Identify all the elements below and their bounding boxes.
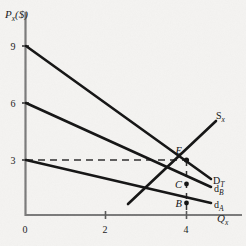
x-tick-label-2: 2 [103,224,108,235]
chart-svg: Px($) Qx 9 6 3 0 2 4 [0,0,246,246]
curve-label-dA-sub: A [218,204,224,213]
y-tick-label-9: 9 [11,41,16,52]
curve-label-Sx-sub: x [221,115,226,124]
y-tick-label-3: 3 [11,155,16,166]
point-label-B: B [176,198,183,209]
point-marker-C [184,182,189,187]
chart-background [0,0,246,246]
x-tick-label-0: 0 [23,224,28,235]
economics-supply-demand-chart: Px($) Qx 9 6 3 0 2 4 [0,0,246,246]
x-tick-label-4: 4 [184,224,189,235]
point-marker-B [184,201,189,206]
y-tick-label-6: 6 [11,98,16,109]
curve-label-dB-sub: B [219,188,224,197]
point-label-E: E [175,145,183,156]
point-label-C: C [175,179,183,190]
point-marker-E [184,157,189,162]
